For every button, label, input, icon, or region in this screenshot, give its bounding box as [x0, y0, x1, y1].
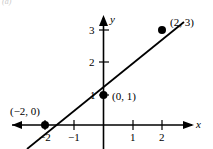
x-axis-label: x — [196, 119, 201, 130]
y-tick-label-2: 2 — [89, 57, 95, 68]
x-axis-arrow-right-icon — [183, 121, 194, 129]
y-tick-label-1: 1 — [90, 90, 96, 101]
x-tick-label-2: 2 — [159, 132, 165, 143]
y-axis — [99, 15, 109, 149]
data-point-2-3 — [158, 26, 166, 34]
coordinate-plane-figure: (a) x y −2 −1 — [0, 0, 213, 149]
point-label-2-3: (2, 3) — [170, 17, 194, 28]
y-axis-arrow-up-icon — [99, 15, 108, 26]
y-tick-label-3: 3 — [89, 25, 95, 36]
plotted-line — [27, 22, 184, 149]
data-point--2-0 — [41, 121, 49, 129]
point-label--2-0: (−2, 0) — [10, 106, 40, 117]
x-tick-label-1: 1 — [130, 132, 136, 143]
data-point-0-1 — [100, 91, 108, 99]
x-tick-label--1: −1 — [68, 132, 80, 143]
y-axis-label: y — [110, 14, 115, 25]
x-axis-arrow-left-icon — [12, 121, 22, 129]
point-label-0-1: (0, 1) — [112, 91, 136, 102]
x-tick-label--2: −2 — [39, 132, 51, 143]
